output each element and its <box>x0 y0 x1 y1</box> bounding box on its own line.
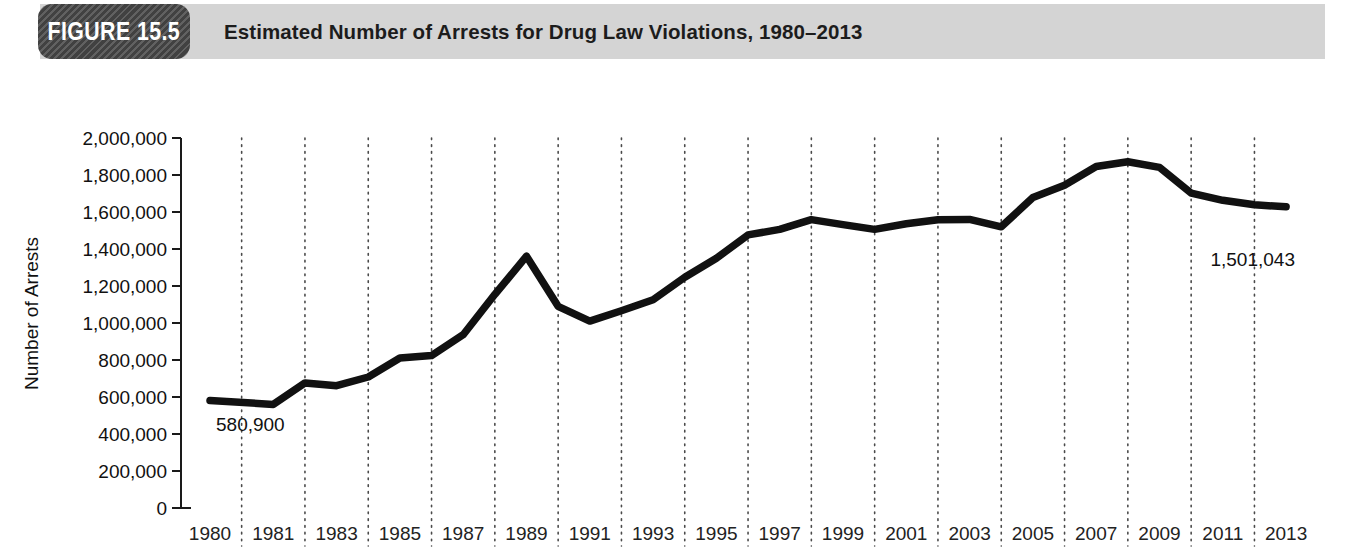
y-tick-label: 1,400,000 <box>82 239 167 260</box>
x-tick-label: 2011 <box>1202 523 1243 544</box>
x-tick-label: 1985 <box>379 523 421 544</box>
x-tick-label: 2009 <box>1138 523 1180 544</box>
x-tick-label: 1993 <box>632 523 674 544</box>
x-tick-label: 1980 <box>189 523 231 544</box>
y-tick-label: 1,200,000 <box>82 276 167 297</box>
y-axis-title: Number of Arrests <box>21 237 42 390</box>
y-tick-label: 600,000 <box>98 387 167 408</box>
x-tick-label: 2003 <box>948 523 990 544</box>
x-tick-label: 1991 <box>569 523 611 544</box>
line-chart: Number of Arrests 0200,000400,000600,000… <box>0 60 1365 557</box>
y-tick-label: 0 <box>156 498 167 519</box>
x-tick-label: 1981 <box>252 523 294 544</box>
x-tick-label: 2001 <box>885 523 927 544</box>
x-tick-label: 1999 <box>822 523 864 544</box>
end-value-annotation: 1,501,043 <box>1210 249 1295 270</box>
figure-header: FIGURE 15.5 Estimated Number of Arrests … <box>40 4 1325 59</box>
x-tick-label: 2007 <box>1075 523 1117 544</box>
y-tick-label: 1,000,000 <box>82 313 167 334</box>
y-axis-ticks: 0200,000400,000600,000800,0001,000,0001,… <box>82 128 181 519</box>
y-tick-label: 2,000,000 <box>82 128 167 149</box>
x-tick-label: 2005 <box>1012 523 1054 544</box>
gridlines <box>242 138 1255 546</box>
figure-number-badge: FIGURE 15.5 <box>38 4 190 59</box>
x-tick-label: 1983 <box>315 523 357 544</box>
chart-container: Number of Arrests 0200,000400,000600,000… <box>0 60 1365 557</box>
y-tick-label: 200,000 <box>98 461 167 482</box>
y-tick-label: 800,000 <box>98 350 167 371</box>
y-tick-label: 400,000 <box>98 424 167 445</box>
x-tick-label: 1987 <box>442 523 484 544</box>
x-tick-label: 1997 <box>759 523 801 544</box>
x-tick-label: 1995 <box>695 523 737 544</box>
figure-number-label: FIGURE 15.5 <box>48 16 180 47</box>
axis-lines <box>181 138 191 508</box>
figure-title: Estimated Number of Arrests for Drug Law… <box>224 20 863 44</box>
data-annotations: 580,9001,501,043 <box>216 249 1295 434</box>
start-value-annotation: 580,900 <box>216 414 285 435</box>
x-tick-label: 1989 <box>505 523 547 544</box>
x-tick-label: 2013 <box>1265 523 1307 544</box>
y-tick-label: 1,600,000 <box>82 202 167 223</box>
y-tick-label: 1,800,000 <box>82 165 167 186</box>
